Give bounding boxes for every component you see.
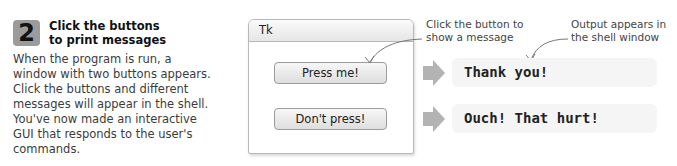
step-title: Click the buttons to print messages: [49, 19, 166, 47]
tk-window: Tk Press me! Don't press!: [248, 19, 414, 154]
output-callout: Output appears in the shell window: [571, 18, 666, 44]
button-callout-line1: Click the button to: [426, 18, 523, 31]
tk-window-titlebar: Tk: [249, 20, 413, 42]
step-number-badge: 2: [13, 20, 40, 46]
step-description: When the program is run, a window with t…: [13, 52, 218, 157]
output-callout-line2: the shell window: [571, 31, 666, 44]
step-title-line1: Click the buttons: [49, 19, 166, 33]
button-callout-line2: show a message: [426, 31, 523, 44]
right-arrow-icon: [423, 60, 445, 86]
button-callout: Click the button to show a message: [426, 18, 523, 44]
step-section: 2 Click the buttons to print messages Wh…: [13, 18, 218, 157]
step-title-line2: to print messages: [49, 33, 166, 47]
press-me-button[interactable]: Press me!: [274, 62, 387, 84]
right-arrow-icon: [423, 106, 445, 132]
output-callout-line1: Output appears in: [571, 18, 666, 31]
dont-press-button[interactable]: Don't press!: [274, 108, 387, 130]
shell-output-line: Ouch! That hurt!: [452, 104, 657, 133]
shell-output-line: Thank you!: [452, 58, 657, 87]
step-header: 2 Click the buttons to print messages: [13, 18, 218, 50]
